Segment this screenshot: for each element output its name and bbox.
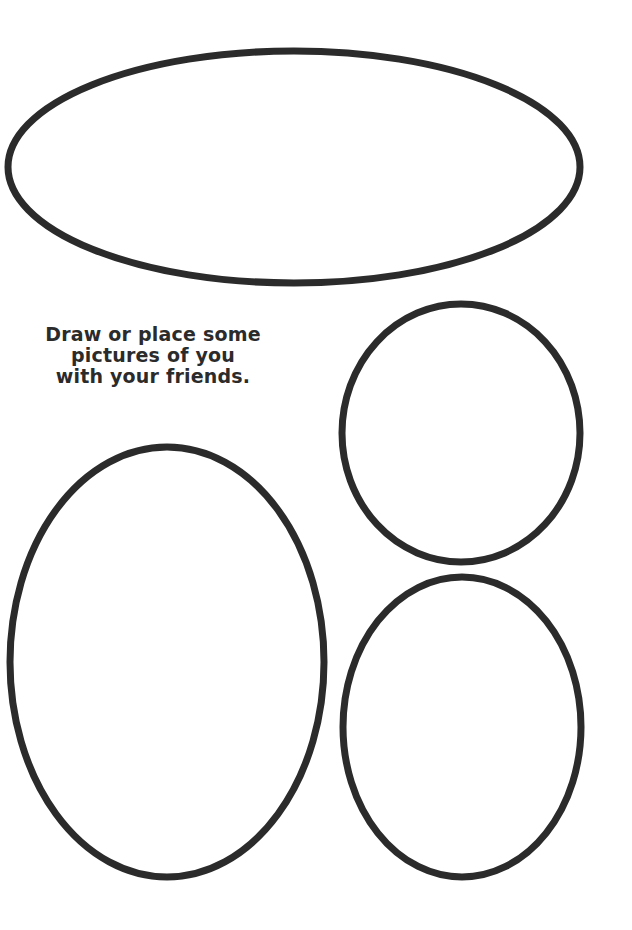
instruction-line-3: with your friends. (22, 366, 284, 387)
top-right-oval-frame[interactable] (342, 304, 580, 562)
instruction-line-2: pictures of you (22, 345, 284, 366)
instruction-text: Draw or place some pictures of you with … (22, 324, 284, 387)
instruction-line-1: Draw or place some (22, 324, 284, 345)
top-wide-oval-frame[interactable] (8, 51, 580, 283)
activity-page: Draw or place some pictures of you with … (0, 0, 632, 930)
picture-frames (0, 0, 632, 930)
large-left-oval-frame[interactable] (10, 447, 324, 877)
bottom-right-oval-frame[interactable] (343, 577, 581, 877)
